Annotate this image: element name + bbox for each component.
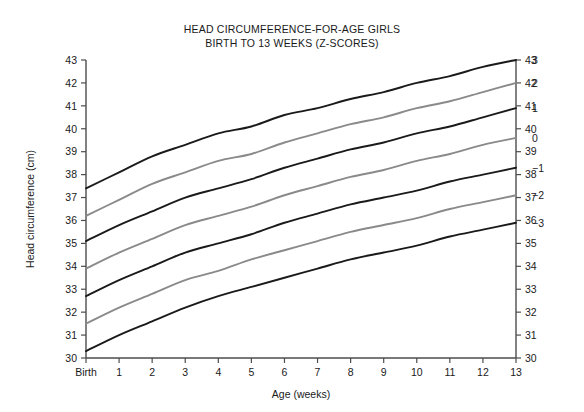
y-tick-label-left-40: 40	[65, 123, 77, 135]
curve-z-2	[86, 83, 516, 216]
head-circumference-chart: HEAD CIRCUMFERENCE-FOR-AGE GIRLS BIRTH T…	[0, 0, 584, 412]
y-tick-label-left-30: 30	[65, 352, 77, 364]
y-axis-title: Head circumference (cm)	[24, 150, 36, 268]
x-axis-title: Age (weeks)	[272, 388, 330, 400]
z-score-label-1: 1	[532, 102, 538, 114]
x-tick-label-11: 11	[444, 366, 455, 378]
y-tick-label-left-31: 31	[65, 329, 77, 341]
curve-z-1	[86, 108, 516, 241]
y-tick-label-right-33: 33	[525, 283, 537, 295]
x-tick-label-6: 6	[282, 366, 288, 378]
y-tick-label-right-34: 34	[525, 260, 537, 272]
curve-z--3	[86, 223, 516, 351]
x-tick-label-0: Birth	[75, 366, 97, 378]
curve-z-3	[86, 60, 516, 188]
y-tick-label-right-39: 39	[525, 145, 537, 157]
z-score-label-2: 2	[532, 77, 538, 89]
y-tick-label-left-38: 38	[65, 168, 77, 180]
x-tick-label-7: 7	[315, 366, 321, 378]
y-tick-label-right-31: 31	[525, 329, 537, 341]
y-tick-label-right-30: 30	[525, 352, 537, 364]
y-tick-label-right-35: 35	[525, 237, 537, 249]
z-score-label-0: 0	[532, 132, 538, 144]
curve-z--1	[86, 168, 516, 296]
x-tick-label-3: 3	[182, 366, 188, 378]
y-tick-label-left-39: 39	[65, 145, 77, 157]
z-score-label--1: −1	[532, 162, 544, 174]
z-score-label--2: −2	[532, 189, 544, 201]
x-tick-label-5: 5	[248, 366, 254, 378]
y-tick-label-left-42: 42	[65, 77, 77, 89]
z-score-label-3: 3	[532, 54, 538, 66]
y-tick-label-left-43: 43	[65, 54, 77, 66]
x-tick-label-4: 4	[215, 366, 221, 378]
y-tick-label-left-36: 36	[65, 214, 77, 226]
y-tick-label-left-32: 32	[65, 306, 77, 318]
x-tick-label-12: 12	[477, 366, 489, 378]
x-tick-label-9: 9	[381, 366, 387, 378]
x-tick-label-10: 10	[411, 366, 423, 378]
y-tick-label-left-41: 41	[65, 100, 77, 112]
curve-z--2	[86, 195, 516, 323]
y-tick-label-right-32: 32	[525, 306, 537, 318]
y-tick-label-left-34: 34	[65, 260, 77, 272]
z-score-label--3: −3	[532, 217, 544, 229]
plot-area: 3030313132323333343435353636373738383939…	[0, 0, 584, 412]
x-tick-label-8: 8	[348, 366, 354, 378]
y-tick-label-left-35: 35	[65, 237, 77, 249]
x-tick-label-2: 2	[149, 366, 155, 378]
x-tick-label-1: 1	[116, 366, 122, 378]
x-tick-label-13: 13	[510, 366, 522, 378]
y-tick-label-left-33: 33	[65, 283, 77, 295]
y-tick-label-left-37: 37	[65, 191, 77, 203]
